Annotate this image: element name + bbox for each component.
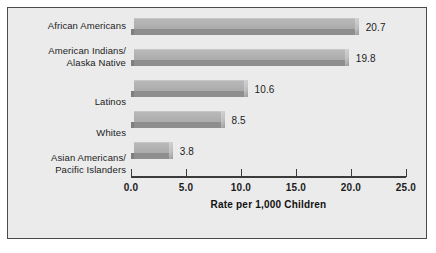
x-axis-title: Rate per 1,000 Children — [131, 199, 406, 210]
bar-left-cap — [131, 153, 134, 159]
category-label-line2: Pacific Islanders — [14, 164, 126, 176]
x-axis-tick — [241, 169, 242, 177]
bar-american-indians — [131, 49, 349, 66]
bar-left-cap — [131, 29, 134, 35]
category-label-group: American Indians/ Alaska Native — [14, 45, 126, 68]
bar-left-cap — [131, 122, 134, 128]
category-label-line1: Latinos — [95, 96, 126, 107]
x-axis-tick — [131, 169, 132, 177]
plot-area: African Americans American Indians/ Alas… — [0, 0, 436, 253]
bar-top-face — [134, 18, 359, 29]
x-axis-tick — [186, 169, 187, 177]
value-label-african-americans: 20.7 — [366, 22, 386, 33]
bar-end-cap — [221, 111, 225, 128]
value-label-whites: 8.5 — [232, 115, 246, 126]
bar-end-cap — [355, 18, 359, 35]
category-label-asian-americans: Asian Americans/ Pacific Islanders — [14, 152, 126, 175]
category-label-group: Asian Americans/ Pacific Islanders — [14, 152, 126, 175]
bar-top-face — [134, 142, 173, 153]
value-label-american-indians: 19.8 — [356, 53, 376, 64]
x-axis-tick-label: 20.0 — [331, 182, 371, 193]
x-axis-tick-label: 10.0 — [221, 182, 261, 193]
x-axis-line — [131, 176, 406, 178]
bar-left-cap — [131, 91, 134, 97]
bar-left-cap — [131, 60, 134, 66]
bar-end-cap — [169, 142, 173, 159]
bar-bottom-face — [131, 60, 345, 66]
x-axis-tick — [296, 169, 297, 177]
bar-end-cap — [345, 49, 349, 66]
bar-asian-americans — [131, 142, 173, 159]
bar-bottom-face — [131, 153, 169, 159]
category-label-line2: Alaska Native — [14, 57, 126, 69]
x-axis-tick-label: 15.0 — [276, 182, 316, 193]
bar-bottom-face — [131, 91, 244, 97]
value-label-latinos: 10.6 — [255, 84, 275, 95]
category-label-group: Whites — [14, 127, 126, 139]
category-label-whites: Whites — [14, 127, 126, 139]
category-label-group: Latinos — [14, 96, 126, 108]
bar-bottom-face — [131, 122, 221, 128]
bar-top-face — [134, 111, 225, 122]
bar-bottom-face — [131, 29, 355, 35]
chart-container: African Americans American Indians/ Alas… — [0, 0, 436, 253]
x-axis-tick — [351, 169, 352, 177]
category-label-line1: African Americans — [48, 20, 126, 31]
x-axis-tick — [406, 169, 407, 177]
category-label-line1: American Indians/ — [14, 45, 126, 57]
value-label-asian-americans: 3.8 — [180, 146, 194, 157]
category-label-american-indians: American Indians/ Alaska Native — [14, 45, 126, 68]
category-label-latinos: Latinos — [14, 96, 126, 108]
category-label-line1: Whites — [96, 127, 126, 138]
bar-top-face — [134, 49, 349, 60]
category-label-african-americans: African Americans — [14, 20, 126, 32]
x-axis-tick-label: 0.0 — [111, 182, 151, 193]
bar-latinos — [131, 80, 248, 97]
x-axis-tick-label: 25.0 — [386, 182, 426, 193]
category-label-line1: Asian Americans/ — [14, 152, 126, 164]
x-axis-tick-label: 5.0 — [166, 182, 206, 193]
bar-whites — [131, 111, 225, 128]
bar-african-americans — [131, 18, 359, 35]
bar-top-face — [134, 80, 248, 91]
category-label-group: African Americans — [14, 20, 126, 32]
bar-end-cap — [244, 80, 248, 97]
